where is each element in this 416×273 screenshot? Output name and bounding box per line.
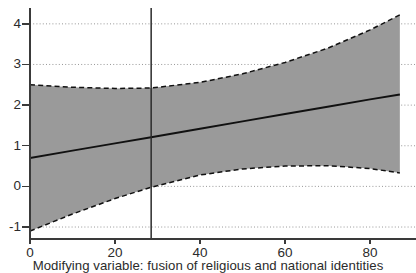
y-axis-tick-label: 2 (0, 98, 21, 112)
y-axis-tick (22, 64, 29, 65)
plot-canvas (30, 8, 416, 238)
y-axis-tick-label: -1 (0, 220, 21, 234)
y-axis-tick (22, 186, 29, 187)
confidence-interval-band (30, 15, 400, 231)
y-axis-tick-label: 4 (0, 17, 21, 31)
x-axis-tick (29, 238, 30, 244)
y-axis-tick-label: 0 (0, 179, 21, 193)
x-axis-tick (114, 238, 115, 244)
x-axis-tick (284, 238, 285, 244)
x-axis-tick (369, 238, 370, 244)
x-axis-title: Modifying variable: fusion of religious … (0, 258, 416, 273)
y-axis-tick (22, 23, 29, 24)
y-axis-tick (22, 104, 29, 105)
x-axis-tick (199, 238, 200, 244)
x-axis-spine (29, 238, 416, 240)
y-axis-tick (22, 145, 29, 146)
y-axis-spine (29, 8, 31, 239)
y-axis-tick-label: 3 (0, 57, 21, 71)
marginal-effects-plot: -101234 020406080 Modifying variable: fu… (0, 0, 416, 273)
plot-area (30, 8, 416, 238)
y-axis-tick (22, 226, 29, 227)
y-axis-tick-label: 1 (0, 139, 21, 153)
